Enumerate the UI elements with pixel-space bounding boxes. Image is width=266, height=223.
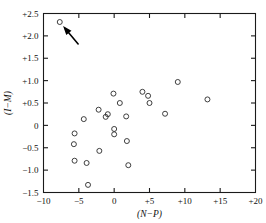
y-tick-label: −1.0	[22, 165, 39, 175]
y-tick-label: +1.5	[22, 53, 39, 63]
data-point	[111, 91, 116, 96]
data-point	[112, 132, 117, 137]
outlier-arrow	[63, 26, 78, 44]
data-point	[96, 107, 101, 112]
data-point	[146, 93, 151, 98]
data-point	[81, 117, 86, 122]
x-tick-label: +15	[213, 196, 228, 206]
data-point	[140, 89, 145, 94]
x-tick-label: −10	[36, 196, 51, 206]
data-point	[71, 142, 76, 147]
scatter-plot-figure: −10−50+5+10+15+20−1.5−1.0−0.50+0.5+1.0+1…	[0, 0, 266, 223]
data-point	[175, 79, 180, 84]
y-tick-label: +0.5	[22, 98, 39, 108]
y-tick-label: 0	[34, 121, 39, 131]
data-point	[57, 20, 62, 25]
data-point	[147, 101, 152, 106]
x-tick-label: +10	[178, 196, 193, 206]
x-tick-label: 0	[112, 196, 117, 206]
data-point	[72, 131, 77, 136]
y-tick-label: −0.5	[22, 143, 39, 153]
y-tick-label: +2.5	[22, 9, 39, 19]
y-tick-label: +2.0	[22, 31, 39, 41]
data-point	[86, 182, 91, 187]
x-tick-label: +20	[248, 196, 263, 206]
x-axis-title: (N−P)	[137, 209, 162, 220]
data-point	[126, 163, 131, 168]
data-point	[84, 160, 89, 165]
y-tick-label: −1.5	[22, 188, 39, 198]
data-point	[112, 126, 117, 131]
x-tick-label: +5	[145, 196, 155, 206]
y-axis-title: (I−M)	[3, 91, 14, 115]
data-point	[117, 101, 122, 106]
data-point	[97, 148, 102, 153]
plot-canvas: −10−50+5+10+15+20−1.5−1.0−0.50+0.5+1.0+1…	[0, 0, 266, 223]
data-point	[205, 97, 210, 102]
data-point	[163, 111, 168, 116]
y-tick-label: +1.0	[22, 76, 39, 86]
data-point	[72, 158, 77, 163]
data-point	[124, 114, 129, 119]
x-tick-label: −5	[74, 196, 84, 206]
data-point	[124, 139, 129, 144]
